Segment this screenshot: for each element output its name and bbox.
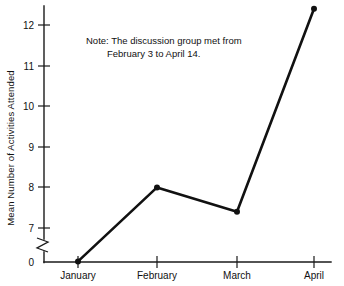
- y-axis-title: Mean Number of Activities Attended: [5, 70, 16, 226]
- x-tick-label-april: April: [304, 270, 324, 281]
- y-tick-label-11: 11: [24, 61, 35, 72]
- data-point-april: [311, 6, 317, 12]
- data-point-february: [154, 184, 160, 190]
- y-tick-label-0: 0: [28, 257, 34, 268]
- note-line-2: February 3 to April 14.: [107, 48, 200, 59]
- data-point-march: [234, 209, 240, 215]
- y-tick-label-7: 7: [28, 223, 34, 234]
- y-tick-label-12: 12: [23, 20, 35, 31]
- x-tick-label-february: February: [137, 270, 177, 281]
- chart-figure: 12 11 10 9 8 7 0 January February March …: [0, 0, 344, 286]
- x-tick-label-march: March: [223, 270, 251, 281]
- data-point-january: [75, 258, 81, 264]
- x-tick-label-january: January: [60, 270, 96, 281]
- y-tick-label-10: 10: [23, 101, 35, 112]
- line-chart: 12 11 10 9 8 7 0 January February March …: [0, 0, 344, 286]
- y-tick-label-9: 9: [28, 142, 34, 153]
- note-line-1: Note: The discussion group met from: [86, 35, 242, 46]
- y-tick-label-8: 8: [28, 182, 34, 193]
